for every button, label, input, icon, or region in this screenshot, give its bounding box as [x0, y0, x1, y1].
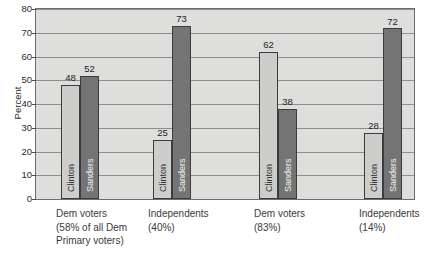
- gridline-80: [36, 9, 414, 10]
- value-clinton-3: 28: [368, 121, 379, 131]
- value-clinton-0: 48: [65, 73, 76, 83]
- bar-label-sanders-1: Sanders: [177, 158, 186, 192]
- bar-label-clinton-2: Clinton: [264, 164, 273, 192]
- value-sanders-2: 38: [282, 97, 293, 107]
- bar-label-sanders-3: Sanders: [388, 158, 397, 192]
- x-category-0-line1: Dem voters: [56, 207, 127, 221]
- plot-area: 80 70 60 50 40 30 20 10 0 Clinton Sander…: [35, 8, 415, 200]
- bar-sanders-group-2: Sanders: [278, 109, 297, 199]
- value-clinton-2: 62: [263, 40, 274, 50]
- value-clinton-1: 25: [157, 128, 168, 138]
- x-category-1-line1: Independents: [148, 207, 209, 221]
- bar-sanders-group-3: Sanders: [383, 28, 402, 199]
- value-sanders-1: 73: [176, 14, 187, 24]
- y-tick-20: 20: [2, 147, 32, 157]
- y-tick-10: 10: [2, 171, 32, 181]
- x-category-0-line2: (58% of all Dem: [56, 221, 127, 235]
- y-tick-70: 70: [2, 28, 32, 38]
- x-category-3-line1: Independents: [359, 207, 420, 221]
- bar-label-clinton-0: Clinton: [66, 164, 75, 192]
- y-tick-60: 60: [2, 52, 32, 62]
- y-tick-50: 50: [2, 76, 32, 86]
- x-category-label-2: Dem voters (83%): [254, 207, 305, 234]
- gridline-60: [36, 57, 414, 58]
- bar-clinton-group-2: Clinton: [259, 52, 278, 199]
- y-tick-30: 30: [2, 123, 32, 133]
- x-category-label-1: Independents (40%): [148, 207, 209, 234]
- x-category-0-line3: Primary voters): [56, 234, 127, 248]
- grouped-bar-chart: Percent 80 70 60 50 40 30 20 10 0 Clinto…: [0, 0, 443, 264]
- x-category-3-line2: (14%): [359, 221, 420, 235]
- bar-label-sanders-0: Sanders: [85, 158, 94, 192]
- bar-label-clinton-1: Clinton: [158, 164, 167, 192]
- y-tick-40: 40: [2, 99, 32, 109]
- gridline-70: [36, 33, 414, 34]
- y-tick-0: 0: [2, 194, 32, 204]
- bar-clinton-group-3: Clinton: [364, 133, 383, 200]
- x-category-1-line2: (40%): [148, 221, 209, 235]
- bar-sanders-group-0: Sanders: [80, 76, 99, 200]
- x-category-label-3: Independents (14%): [359, 207, 420, 234]
- bar-sanders-group-1: Sanders: [172, 26, 191, 199]
- value-sanders-0: 52: [84, 64, 95, 74]
- bar-label-sanders-2: Sanders: [283, 158, 292, 192]
- x-category-label-0: Dem voters (58% of all Dem Primary voter…: [56, 207, 127, 248]
- value-sanders-3: 72: [387, 17, 398, 27]
- bar-clinton-group-1: Clinton: [153, 140, 172, 199]
- bar-label-clinton-3: Clinton: [369, 164, 378, 192]
- bar-clinton-group-0: Clinton: [61, 85, 80, 199]
- x-category-2-line2: (83%): [254, 221, 305, 235]
- x-category-2-line1: Dem voters: [254, 207, 305, 221]
- y-tick-80: 80: [2, 4, 32, 14]
